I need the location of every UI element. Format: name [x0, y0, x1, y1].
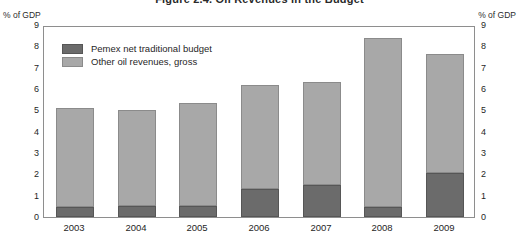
bar-segment-2007-series-1 [303, 185, 341, 217]
x-axis-label-2007: 2007 [291, 222, 351, 233]
legend-item-2: Other oil revenues, gross [62, 56, 212, 67]
right-axis-unit-caption: % of GDP [478, 10, 516, 20]
bar-segment-2007-series-2 [303, 82, 341, 185]
legend-label-1: Pemex net traditional budget [91, 43, 212, 54]
y-axis-tick-label-right-0: 0 [481, 213, 511, 222]
chart-figure: Figure 2.4. Oil Revenues in the Budget %… [0, 0, 519, 251]
chart-title: Figure 2.4. Oil Revenues in the Budget [0, 0, 519, 5]
bar-group-2009 [426, 25, 464, 217]
bar-segment-2004-series-2 [118, 110, 156, 206]
y-axis-tick-label-right-9: 9 [481, 21, 511, 30]
bar-segment-2003-series-2 [56, 108, 94, 207]
x-axis-label-2004: 2004 [106, 222, 166, 233]
chart-legend: Pemex net traditional budgetOther oil re… [62, 43, 212, 67]
bar-segment-2009-series-2 [426, 54, 464, 173]
y-axis-tick-label-left-5: 5 [9, 106, 39, 115]
y-axis-tick-label-right-2: 2 [481, 170, 511, 179]
y-axis-tick-label-left-9: 9 [9, 21, 39, 30]
x-axis-label-2005: 2005 [167, 222, 227, 233]
bar-group-2008 [364, 25, 402, 217]
bar-segment-2006-series-2 [241, 85, 279, 190]
x-axis-label-2003: 2003 [44, 222, 104, 233]
bar-segment-2005-series-1 [179, 206, 217, 217]
y-axis-tick-label-right-6: 6 [481, 85, 511, 94]
y-axis-tick-label-right-8: 8 [481, 42, 511, 51]
x-axis-label-2009: 2009 [414, 222, 474, 233]
y-axis-tick-label-left-7: 7 [9, 64, 39, 73]
y-axis-tick-label-left-0: 0 [9, 213, 39, 222]
bar-segment-2008-series-2 [364, 38, 402, 208]
x-axis-label-2008: 2008 [352, 222, 412, 233]
bar-segment-2008-series-1 [364, 207, 402, 217]
legend-swatch-2 [62, 57, 83, 67]
y-axis-tick-label-left-2: 2 [9, 170, 39, 179]
y-axis-tick-label-right-5: 5 [481, 106, 511, 115]
y-axis-tick-label-left-1: 1 [9, 192, 39, 201]
bar-segment-2004-series-1 [118, 206, 156, 217]
x-axis-label-2006: 2006 [229, 222, 289, 233]
y-axis-tick-label-left-6: 6 [9, 85, 39, 94]
bar-segment-2005-series-2 [179, 103, 217, 206]
y-axis-tick-label-right-1: 1 [481, 192, 511, 201]
y-axis-tick-label-left-4: 4 [9, 128, 39, 137]
bar-segment-2003-series-1 [56, 207, 94, 217]
bar-group-2007 [303, 25, 341, 217]
bar-group-2006 [241, 25, 279, 217]
legend-label-2: Other oil revenues, gross [91, 56, 197, 67]
y-axis-tick-label-left-8: 8 [9, 42, 39, 51]
y-axis-tick-label-left-3: 3 [9, 149, 39, 158]
bar-segment-2009-series-1 [426, 173, 464, 217]
left-axis-unit-caption: % of GDP [3, 10, 41, 20]
y-axis-tick-label-right-4: 4 [481, 128, 511, 137]
legend-item-1: Pemex net traditional budget [62, 43, 212, 54]
legend-swatch-1 [62, 44, 83, 54]
y-axis-tick-label-right-7: 7 [481, 64, 511, 73]
y-axis-tick-label-right-3: 3 [481, 149, 511, 158]
bar-segment-2006-series-1 [241, 189, 279, 217]
